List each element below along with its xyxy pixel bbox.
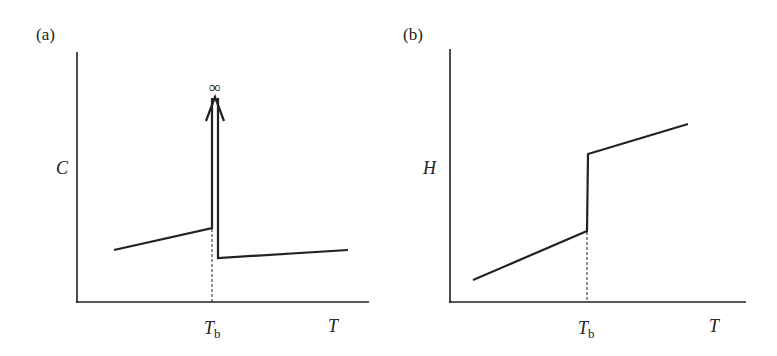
y-axis-label: C [56, 158, 69, 178]
y-axis-label: H [422, 158, 437, 178]
tb-tick-label: Tb [204, 318, 221, 341]
figure: (a) ∞ C Tb T (b) H Tb T [0, 0, 777, 356]
panel-a: (a) ∞ C Tb T [36, 25, 369, 341]
curve-below-tb [114, 98, 212, 250]
curve-above-tb [218, 98, 348, 258]
panel-b: (b) H Tb T [403, 25, 746, 341]
x-axis-label: T [709, 316, 721, 336]
panel-a-label: (a) [36, 25, 55, 44]
arrow-up-icon [206, 97, 224, 121]
tb-tick-label: Tb [578, 318, 595, 341]
infinity-annotation: ∞ [209, 78, 221, 97]
x-axis-label: T [328, 316, 340, 336]
enthalpy-curve [473, 124, 688, 280]
panel-b-label: (b) [403, 25, 423, 44]
